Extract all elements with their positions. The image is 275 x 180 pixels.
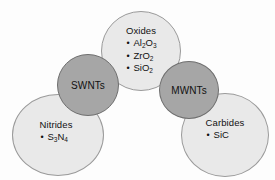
bullet-icon: •	[126, 63, 133, 75]
formula-al2o3: Al2O3	[133, 37, 156, 48]
circle-label-oxides: Oxides	[125, 25, 156, 36]
formula-s3n4: S3N4	[47, 131, 67, 142]
nitrides-content: Nitrides •S3N4	[39, 119, 72, 144]
oxides-content: Oxides •Al2O3 •ZrO2 •SiO2	[125, 25, 156, 75]
circle-label-swnts: SWNTs	[71, 80, 105, 91]
bullet-icon: •	[40, 132, 47, 144]
circle-swnts[interactable]: SWNTs	[57, 54, 119, 116]
list-item: •ZrO2	[125, 50, 156, 63]
formula-sic: SiC	[214, 129, 229, 140]
nitrides-item-list: •S3N4	[39, 131, 72, 144]
bullet-icon: •	[126, 51, 133, 63]
list-item: •S3N4	[39, 131, 72, 144]
list-item: •SiO2	[125, 62, 156, 75]
circle-label-nitrides: Nitrides	[39, 119, 72, 130]
carbides-content: Carbides •SiC	[206, 117, 245, 142]
list-item: •SiC	[206, 129, 245, 142]
circle-label-mwnts: MWNTs	[171, 85, 207, 96]
bullet-icon: •	[207, 130, 214, 142]
bullet-icon: •	[126, 38, 133, 50]
nanotube-composite-diagram: Oxides •Al2O3 •ZrO2 •SiO2 Nitrides •S3N4	[0, 0, 275, 180]
oxides-item-list: •Al2O3 •ZrO2 •SiO2	[125, 37, 156, 75]
circle-label-carbides: Carbides	[206, 117, 245, 128]
list-item: •Al2O3	[125, 37, 156, 50]
formula-sio2: SiO2	[133, 62, 152, 73]
circle-mwnts[interactable]: MWNTs	[159, 61, 219, 119]
carbides-item-list: •SiC	[206, 129, 245, 142]
formula-zro2: ZrO2	[133, 50, 153, 61]
